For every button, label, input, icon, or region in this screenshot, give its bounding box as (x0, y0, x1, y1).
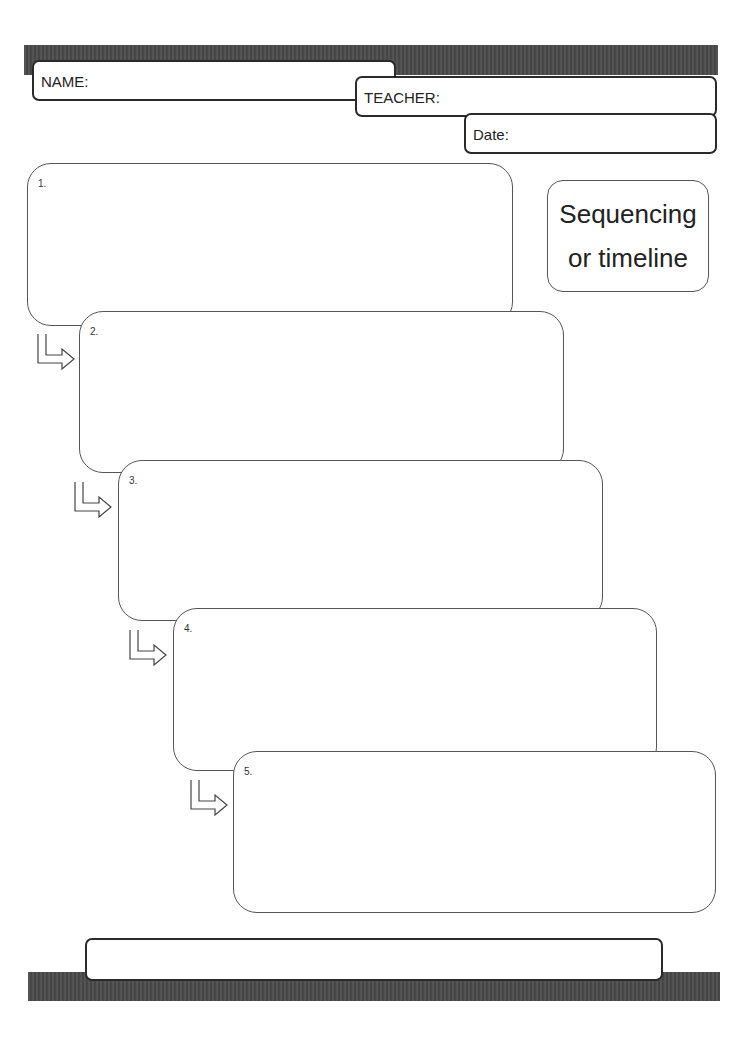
step-box-5[interactable]: 5. (233, 751, 716, 913)
step-box-3[interactable]: 3. (118, 460, 603, 621)
down-right-arrow-icon (73, 482, 113, 518)
step-box-2[interactable]: 2. (79, 311, 564, 473)
step-box-1[interactable]: 1. (27, 163, 513, 326)
teacher-field[interactable]: TEACHER: (355, 76, 717, 117)
step-number: 1. (38, 178, 46, 189)
teacher-label: TEACHER: (364, 88, 440, 105)
down-right-arrow-icon (189, 780, 229, 816)
name-field[interactable]: NAME: (32, 60, 396, 101)
step-number: 2. (90, 326, 98, 337)
footer-field[interactable] (85, 938, 663, 981)
step-box-4[interactable]: 4. (173, 608, 657, 771)
step-number: 4. (184, 623, 192, 634)
down-right-arrow-icon (36, 334, 76, 370)
step-number: 5. (244, 766, 252, 777)
date-label: Date: (473, 125, 509, 142)
title-line-2: or timeline (568, 236, 688, 280)
down-right-arrow-icon (128, 630, 168, 666)
name-label: NAME: (41, 72, 89, 89)
title-line-1: Sequencing (559, 192, 696, 236)
date-field[interactable]: Date: (464, 113, 717, 154)
step-number: 3. (129, 475, 137, 486)
worksheet-title: Sequencing or timeline (547, 180, 709, 292)
